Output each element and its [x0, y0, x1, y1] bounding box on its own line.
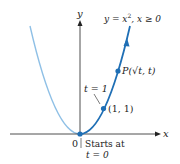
- parabola-right-branch: [80, 26, 130, 134]
- curve-label: y = x2, x ≥ 0: [103, 12, 161, 24]
- point-p-label: P(√t, t): [121, 65, 156, 76]
- point-p: [115, 68, 120, 73]
- y-axis-arrow-icon: [78, 20, 83, 26]
- point-1-1-label: (1, 1): [108, 103, 134, 114]
- start-note-line2: t = 0: [86, 150, 109, 160]
- x-axis-label: x: [163, 128, 169, 139]
- direction-arrow-icon: [124, 38, 130, 47]
- start-note-line1: Starts at: [85, 139, 125, 149]
- y-axis-label: y: [76, 8, 83, 19]
- x-axis-arrow-icon: [155, 132, 161, 137]
- origin-point: [77, 131, 82, 136]
- point-1-1: [101, 106, 106, 111]
- parabola-diagram: y x 0 y = x2, x ≥ 0 P(√t, t) (1, 1) t = …: [0, 0, 180, 164]
- t1-label: t = 1: [84, 83, 108, 94]
- t1-leader-line: [94, 94, 100, 104]
- origin-label: 0: [72, 138, 78, 149]
- parabola-left-branch: [30, 26, 80, 134]
